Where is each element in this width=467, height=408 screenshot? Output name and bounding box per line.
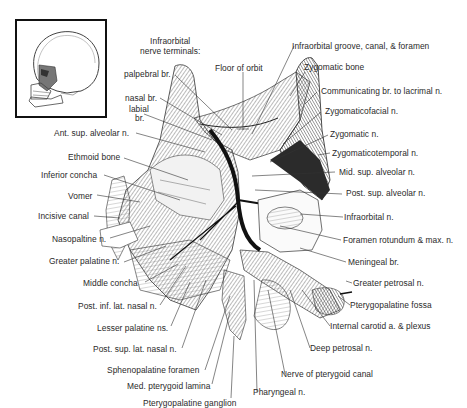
label-mid-sup-alveolar-n: Mid. sup. alveolar n. <box>339 167 415 177</box>
label-infraorbital-groove: Infraorbital groove, canal, & foramen <box>292 41 429 51</box>
label-ant-sup-alveolar-n: Ant. sup. alveolar n. <box>54 128 129 138</box>
label-nerve-pterygoid-canal: Nerve of pterygoid canal <box>281 369 373 379</box>
label-nasopaltine-n: Nasopaltine n. <box>52 234 106 244</box>
label-zygomatic-bone: Zygomatic bone <box>304 62 364 72</box>
label-labial-br: br. <box>135 113 144 123</box>
label-infraorbital-n: Infraorbital n. <box>344 212 394 222</box>
label-pharyngeal-n: Pharyngeal n. <box>253 387 305 397</box>
header-line-1: Infraorbital <box>140 36 200 46</box>
header-label-infraorbital-terminals: Infraorbital nerve terminals: <box>140 36 200 56</box>
label-palpebral-br: palpebral br. <box>124 69 171 79</box>
label-inferior-concha: Inferior concha <box>41 170 97 180</box>
label-floor-of-orbit: Floor of orbit <box>215 63 263 73</box>
label-ethmoid-bone: Ethmoid bone <box>68 152 120 162</box>
label-post-inf-lat-nasal-n: Post. inf. lat. nasal n. <box>78 301 157 311</box>
label-sphenopalatine-foramen: Sphenopalatine foramen <box>107 365 199 375</box>
anatomy-illustration <box>0 0 467 408</box>
header-line-2: nerve terminals: <box>140 46 200 56</box>
label-communicating-br: Communicating br. to lacrimal n. <box>321 86 442 96</box>
label-post-sup-alveolar-n: Post. sup. alveolar n. <box>346 188 425 198</box>
label-internal-carotid: Internal carotid a. & plexus <box>330 321 431 331</box>
label-deep-petrosal-n: Deep petrosal n. <box>310 343 372 353</box>
label-greater-petrosal-n: Greater petrosal n. <box>353 278 424 288</box>
label-med-pterygoid-lamina: Med. pterygoid lamina <box>127 381 210 391</box>
label-zygomaticofacial-n: Zygomaticofacial n. <box>325 106 398 116</box>
label-zygomaticotemporal-n: Zygomaticotemporal n. <box>332 148 418 158</box>
label-meningeal-br: Meningeal br. <box>348 257 399 267</box>
label-post-sup-lat-nasal-n: Post. sup. lat. nasal n. <box>93 344 177 354</box>
label-pterygopalatine-ganglion: Pterygopalatine ganglion <box>143 398 236 408</box>
label-vomer: Vomer <box>68 191 92 201</box>
label-foramen-rotundum: Foramen rotundum & max. n. <box>343 235 453 245</box>
label-incisive-canal: Incisive canal <box>38 211 89 221</box>
label-middle-concha: Middle concha <box>83 278 138 288</box>
label-greater-palatine-n: Greater palatine n. <box>49 256 119 266</box>
label-nasal-br: nasal br. <box>125 93 157 103</box>
label-zygomatic-n: Zygomatic n. <box>330 129 379 139</box>
label-lesser-palatine-ns: Lesser palatine ns. <box>97 323 168 333</box>
label-pterygopalatine-fossa: Pterygopalatine fossa <box>350 300 432 310</box>
